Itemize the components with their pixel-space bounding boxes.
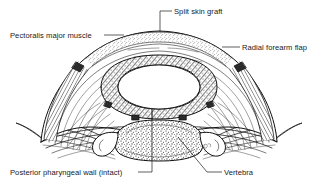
label-posterior-pharyngeal-wall: Posterior pharyngeal wall (intact) — [10, 168, 123, 177]
anatomical-figure: Split skin graft Pectoralis major muscle… — [0, 0, 318, 188]
neopharyngeal-lumen — [118, 65, 200, 109]
label-pectoralis-major-muscle: Pectoralis major muscle — [10, 31, 92, 40]
label-split-skin-graft: Split skin graft — [174, 7, 223, 16]
leader-split-skin-graft — [160, 11, 172, 32]
label-radial-forearm-flap: Radial forearm flap — [242, 43, 307, 52]
figure-canvas: Split skin graft Pectoralis major muscle… — [0, 0, 318, 188]
label-vertebra: Vertebra — [224, 168, 254, 177]
